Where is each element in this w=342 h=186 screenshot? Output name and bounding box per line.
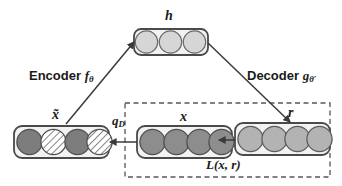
reconstruction-unit: [307, 126, 332, 151]
loss-function-label: L(x, r): [206, 158, 241, 171]
corrupted-unit-solid: [17, 129, 42, 154]
decoder-label-text: Decoder: [247, 68, 299, 83]
corrupted-unit-hatched: [41, 129, 66, 154]
corrupted-input-box: [14, 126, 112, 158]
hidden-unit: [183, 31, 205, 53]
decoder-subscript: θ′: [309, 74, 316, 84]
corruption-subscript: D: [119, 119, 125, 129]
hidden-layer-box: [134, 29, 208, 55]
reconstruction-unit: [262, 126, 287, 151]
corrupted-unit-hatched: [87, 129, 112, 154]
input-label: x: [180, 110, 187, 124]
encoder-label-text: Encoder: [29, 68, 81, 83]
input-unit: [209, 129, 234, 154]
corrupted-input-label: x̃: [52, 108, 59, 122]
encoder-subscript: θ: [89, 74, 94, 84]
reconstruction-label: r: [288, 106, 293, 120]
autoencoder-diagram: [0, 0, 342, 186]
reconstruction-box: [235, 123, 332, 155]
hidden-layer-label: h: [165, 9, 173, 23]
input-unit: [164, 129, 189, 154]
hidden-unit: [159, 31, 181, 53]
reconstruction-unit: [238, 126, 263, 151]
input-unit: [140, 129, 165, 154]
decoder-label: Decoder gθ′: [247, 69, 316, 84]
hidden-unit: [135, 31, 157, 53]
corruption-process-label: qD: [112, 114, 125, 129]
encoder-label: Encoder fθ: [29, 69, 94, 84]
input-box: [137, 126, 234, 158]
